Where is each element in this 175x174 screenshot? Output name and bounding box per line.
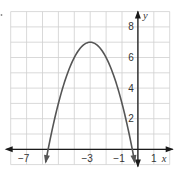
y-tick-label: 8 bbox=[128, 21, 134, 32]
curve-arrow-icon bbox=[44, 155, 50, 164]
y-tick-label: 2 bbox=[128, 113, 134, 124]
x-axis-arrow-left-icon bbox=[5, 146, 13, 152]
grid bbox=[11, 12, 170, 165]
y-tick-label: 6 bbox=[128, 52, 134, 63]
x-tick-label: −7 bbox=[18, 153, 30, 164]
x-tick-label: 1 bbox=[151, 153, 157, 164]
x-tick-label: −1 bbox=[113, 153, 125, 164]
stray-mark bbox=[1, 14, 3, 16]
y-axis-arrow-down-icon bbox=[135, 160, 141, 168]
x-tick-label: −3 bbox=[81, 153, 93, 164]
y-tick-label: 4 bbox=[128, 83, 134, 94]
curve-arrow-icon bbox=[130, 155, 136, 164]
parabola-graph: −7−3−112468 x y bbox=[0, 0, 175, 174]
axes bbox=[5, 11, 174, 168]
x-axis-label: x bbox=[161, 153, 167, 164]
y-axis-label: y bbox=[142, 10, 148, 21]
